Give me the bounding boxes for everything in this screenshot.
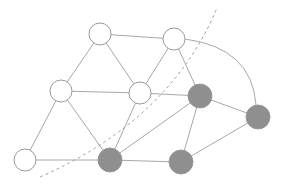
node-I-gray <box>169 150 193 174</box>
node-D-white <box>129 82 151 104</box>
edge-C-D <box>61 91 140 93</box>
edge-C-H <box>61 91 110 160</box>
node-G-white <box>14 149 36 171</box>
node-E-gray <box>188 84 212 108</box>
node-C-white <box>50 80 72 102</box>
nodes-layer <box>14 23 270 174</box>
node-A-white <box>89 23 111 45</box>
node-H-gray <box>98 148 122 172</box>
node-F-gray <box>246 105 270 129</box>
edge-C-G <box>25 91 61 160</box>
graph-diagram <box>0 0 285 188</box>
edge-F-I <box>181 117 258 162</box>
node-B-white <box>163 28 185 50</box>
